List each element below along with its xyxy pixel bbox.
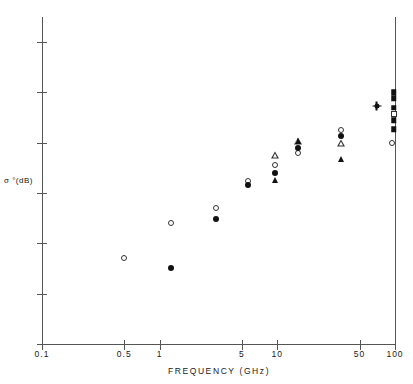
data-point-filled-circle [213,216,219,222]
x-tick-label: 10 [272,349,283,359]
data-point-filled-circle [168,265,174,271]
x-axis-line [42,344,396,345]
x-tick-label: 0.1 [35,349,50,359]
right-spine-line [395,17,396,345]
data-point-filled-square [391,117,397,123]
y-tick-mark [37,243,47,244]
y-tick-mark [37,294,47,295]
data-point-filled-circle [272,170,278,176]
data-point-open-circle [213,205,219,211]
y-tick-mark [37,143,47,144]
data-point-open-square [391,111,397,117]
data-point-open-triangle [337,139,345,146]
data-point-open-circle [389,140,395,146]
y-axis-title: σ °(dB) [4,176,33,185]
y-tick-mark [37,42,47,43]
x-tick-label: 100 [386,349,403,359]
data-point-open-circle [272,162,278,168]
data-point-filled-square [391,96,397,102]
star-center-dot [374,104,379,109]
y-tick-mark [37,92,47,93]
data-point-filled-circle [295,145,301,151]
data-point-open-triangle [271,152,279,159]
x-tick-label: 1 [157,349,163,359]
x-tick-label: 5 [239,349,245,359]
y-tick-mark [37,193,47,194]
data-point-filled-triangle [338,156,344,162]
plot-area: -20-30-40-50-60-70-80 0.10.5151050100 [42,17,396,345]
data-point-filled-square [391,105,397,111]
data-point-filled-triangle [295,138,301,144]
y-axis-line [42,17,43,345]
sigma-vs-frequency-scatter-chart: σ °(dB) FREQUENCY (GHz) -20-30-40-50-60-… [0,0,413,384]
data-point-filled-triangle [272,177,278,183]
x-axis-title: FREQUENCY (GHz) [42,366,396,376]
data-point-filled-square [391,90,397,96]
data-markers [42,17,396,38]
x-tick-label: 0.5 [117,349,132,359]
data-point-filled-circle [245,182,251,188]
x-tick-label: 50 [354,349,365,359]
data-point-filled-square [391,126,397,132]
data-point-star [372,102,381,111]
data-point-open-circle [121,255,127,261]
data-point-open-circle [168,220,174,226]
